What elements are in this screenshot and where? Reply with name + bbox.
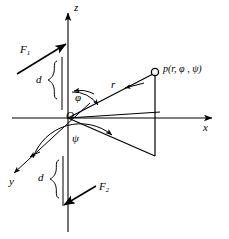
distance-brace-lower <box>50 156 63 206</box>
force-f2-label: F2 <box>99 181 109 192</box>
z-axis-label: z <box>74 2 78 13</box>
psi-angle-arc <box>30 124 112 158</box>
distance-lower-label: d <box>38 172 44 183</box>
distance-upper-label: d <box>36 74 42 85</box>
force-f2-subscript: 2 <box>106 186 109 193</box>
x-axis-label: x <box>203 122 208 133</box>
point-p-label: p(r, φ , ψ) <box>163 64 202 74</box>
force-f1-symbol: F <box>20 43 27 55</box>
origin-label: O <box>66 110 74 121</box>
figure-canvas: z x y O p(r, φ , ψ) r φ ψ F1 F2 d d <box>0 0 229 239</box>
force-f1-label: F1 <box>20 44 30 55</box>
force-vector-f2 <box>64 186 96 205</box>
point-p-marker <box>151 68 158 75</box>
force-f2-symbol: F <box>99 180 106 192</box>
radial-vector-label: r <box>111 79 115 90</box>
phi-angle-label: φ <box>75 92 81 103</box>
diagram-svg <box>0 0 229 239</box>
projection-triangle <box>68 112 160 156</box>
y-axis-label: y <box>9 176 14 187</box>
force-f1-subscript: 1 <box>27 49 30 56</box>
psi-angle-label: ψ <box>72 133 79 144</box>
distance-brace-upper <box>48 57 62 110</box>
